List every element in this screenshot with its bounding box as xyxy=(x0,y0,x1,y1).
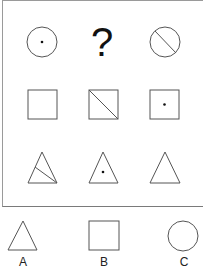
circle-dot-figure xyxy=(27,27,57,57)
option-c-label[interactable]: C xyxy=(174,255,194,269)
triangle-dot-figure xyxy=(89,152,118,183)
square-dot-figure xyxy=(150,90,179,119)
square-diagonal-figure xyxy=(89,90,118,119)
question-mark: ? xyxy=(86,20,118,64)
triangle-line-figure xyxy=(28,152,57,183)
option-c-circle[interactable] xyxy=(168,221,198,251)
option-a-label[interactable]: A xyxy=(13,255,33,269)
option-b-label[interactable]: B xyxy=(94,255,114,269)
square-empty-figure xyxy=(28,90,57,119)
option-b-square[interactable] xyxy=(89,221,119,250)
triangle-empty-figure xyxy=(150,152,180,183)
option-a-triangle[interactable] xyxy=(8,221,37,250)
circle-line-figure xyxy=(150,27,180,57)
